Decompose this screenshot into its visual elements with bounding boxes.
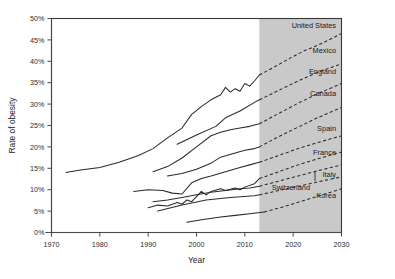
historical-line xyxy=(177,100,259,145)
chart-canvas: 0%5%10%15%20%25%30%35%40%45%50% 19701980… xyxy=(0,0,395,279)
y-axis-title: Rate of obesity xyxy=(7,97,17,154)
y-tick-label: 15% xyxy=(30,164,45,173)
x-tick-label: 2020 xyxy=(285,240,301,249)
series-label-switzerland: Switzerland xyxy=(272,183,310,192)
series-label-italy: Italy xyxy=(322,170,336,179)
historical-line xyxy=(187,212,264,222)
x-tick-label: 2000 xyxy=(189,240,205,249)
y-tick-label: 0% xyxy=(34,228,45,237)
y-tick-label: 45% xyxy=(30,36,45,45)
historical-line xyxy=(168,147,260,176)
series-label-mexico: Mexico xyxy=(313,46,336,55)
series-label-france: France xyxy=(313,148,336,157)
y-tick-label: 40% xyxy=(30,57,45,66)
y-tick-label: 10% xyxy=(30,185,45,194)
x-axis-title: Year xyxy=(188,255,205,265)
series-label-england: England xyxy=(309,67,336,76)
y-tick-label: 5% xyxy=(34,207,45,216)
obesity-rate-chart: 0%5%10%15%20%25%30%35%40%45%50% 19701980… xyxy=(0,0,395,279)
x-tick-label: 1980 xyxy=(92,240,108,249)
historical-line xyxy=(153,186,259,201)
x-axis-tick-labels: 1970198019902000201020202030 xyxy=(44,240,350,249)
y-tick-label: 35% xyxy=(30,78,45,87)
y-tick-label: 20% xyxy=(30,143,45,152)
x-tick-label: 1970 xyxy=(44,240,60,249)
historical-line xyxy=(158,195,259,211)
y-axis-tick-labels: 0%5%10%15%20%25%30%35%40%45%50% xyxy=(30,14,45,237)
historical-line xyxy=(66,75,259,173)
series-label-united-states: United States xyxy=(292,21,337,30)
series-label-spain: Spain xyxy=(317,124,336,133)
y-tick-label: 50% xyxy=(30,14,45,23)
series-label-korea: Korea xyxy=(316,191,337,200)
x-tick-label: 2010 xyxy=(237,240,253,249)
x-tick-label: 2030 xyxy=(334,240,350,249)
series-label-canada: Canada xyxy=(310,89,337,98)
y-tick-label: 25% xyxy=(30,121,45,130)
y-tick-label: 30% xyxy=(30,100,45,109)
x-tick-label: 1990 xyxy=(140,240,156,249)
